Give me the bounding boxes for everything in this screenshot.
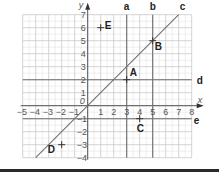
y-tick-label: 4 <box>81 49 86 59</box>
x-tick-label: 5 <box>150 107 155 117</box>
x-tick-label: 7 <box>176 107 181 117</box>
point-label-C: C <box>137 123 144 134</box>
line-label-d: d <box>197 75 203 86</box>
y-tick-label: −4 <box>77 153 87 163</box>
y-tick-label: 3 <box>81 62 86 72</box>
x-tick-label: 6 <box>163 107 168 117</box>
x-tick-label: 1 <box>98 107 103 117</box>
y-tick-label: 7 <box>81 10 86 20</box>
point-label-B: B <box>155 41 162 52</box>
y-tick-label: −2 <box>77 127 87 137</box>
x-tick-label: 2 <box>111 107 116 117</box>
origin-label: 0 <box>80 96 85 106</box>
x-tick-label: −5 <box>17 107 27 117</box>
coordinate-plane: abcde ABCDE −5−4−3−2−1123456787654321−1−… <box>0 0 219 172</box>
x-tick-label: −4 <box>30 107 40 117</box>
x-tick-label: −3 <box>43 107 53 117</box>
y-tick-label: 6 <box>81 23 86 33</box>
y-tick-label: −3 <box>77 140 87 150</box>
x-axis-label: x <box>197 95 203 105</box>
line-label-c: c <box>180 1 186 12</box>
x-tick-label: 3 <box>124 107 129 117</box>
y-tick-label: 2 <box>81 75 86 85</box>
line-label-e: e <box>194 115 200 126</box>
point-label-A: A <box>130 67 137 78</box>
coordinate-grid-diagram: abcde ABCDE −5−4−3−2−1123456787654321−1−… <box>0 0 219 172</box>
x-tick-label: 4 <box>137 107 142 117</box>
y-tick-label: −1 <box>77 114 87 124</box>
line-label-a: a <box>124 1 130 12</box>
line-label-b: b <box>150 1 156 12</box>
point-label-D: D <box>48 144 55 155</box>
x-tick-label: 8 <box>189 107 194 117</box>
x-tick-label: −2 <box>56 107 66 117</box>
y-axis-label: y <box>78 0 84 10</box>
y-tick-label: 5 <box>81 36 86 46</box>
bottom-divider <box>0 169 219 172</box>
point-label-E: E <box>105 20 112 31</box>
